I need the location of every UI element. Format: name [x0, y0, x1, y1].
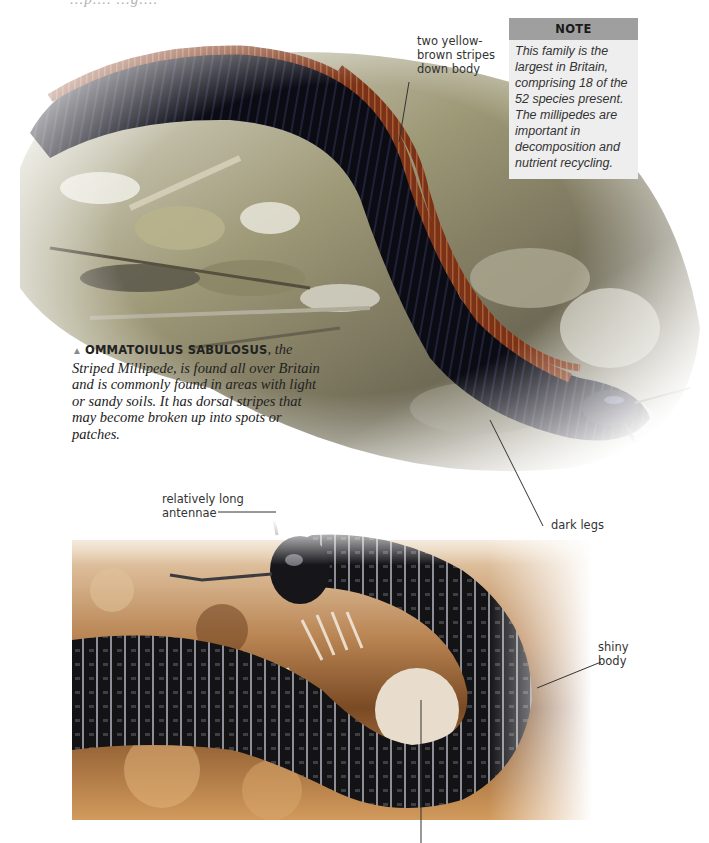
annotation-antennae: relatively long antennae	[162, 492, 244, 520]
triangle-marker-icon: ▲	[72, 345, 82, 356]
note-heading: NOTE	[509, 18, 638, 40]
annotation-shiny-body: shiny body	[598, 640, 629, 668]
species-caption: ▲OMMATOIULUS SABULOSUS, the Striped Mill…	[72, 341, 322, 442]
note-box: NOTE This family is the largest in Brita…	[509, 18, 638, 179]
note-body: This family is the largest in Britain, c…	[509, 40, 638, 179]
photo-coiled-millipede	[72, 520, 592, 820]
annotation-dark-legs: dark legs	[551, 518, 604, 532]
species-name: OMMATOIULUS SABULOSUS	[85, 343, 268, 357]
annotation-stripes: two yellow- brown stripes down body	[417, 34, 495, 76]
clipped-header-text: ...p.... ...g....	[70, 0, 158, 8]
